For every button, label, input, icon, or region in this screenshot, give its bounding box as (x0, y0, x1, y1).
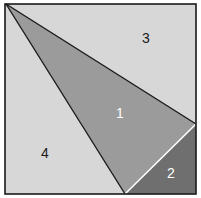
diagram-svg: 1 2 3 4 (0, 0, 201, 198)
region-2-label: 2 (167, 165, 175, 181)
region-4-label: 4 (41, 145, 49, 161)
region-1-label: 1 (116, 105, 124, 121)
region-3-label: 3 (142, 30, 150, 46)
partitioned-square-diagram: 1 2 3 4 (0, 0, 201, 198)
